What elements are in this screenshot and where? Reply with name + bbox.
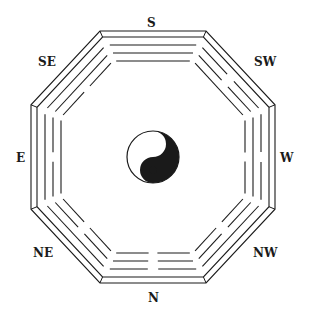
- direction-label-southwest: SW: [254, 56, 276, 68]
- direction-label-northwest: NW: [253, 247, 277, 259]
- bagua-diagram: S SW W NW N NE E SE: [0, 0, 311, 320]
- direction-label-east: E: [16, 152, 25, 164]
- yin-yang-icon: [0, 0, 311, 320]
- direction-label-north: N: [148, 292, 159, 304]
- direction-label-northeast: NE: [33, 247, 53, 259]
- direction-label-west: W: [280, 152, 293, 164]
- direction-label-southeast: SE: [38, 56, 56, 68]
- direction-label-south: S: [147, 17, 156, 29]
